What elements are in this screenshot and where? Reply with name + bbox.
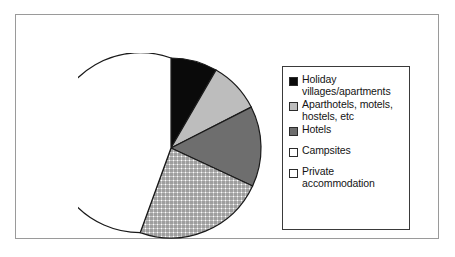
legend-item-aparthotels: Aparthotels, motels, hostels, etc (289, 99, 404, 122)
legend-item-private-accommodation: Private accommodation (289, 166, 404, 189)
legend-swatch-campsites (289, 148, 298, 157)
legend-swatch-holiday-villages (289, 77, 298, 86)
legend-swatch-hotels (289, 127, 298, 136)
legend-label-holiday-villages: Holiday villages/apartments (302, 74, 391, 97)
pie-chart-graphic (78, 53, 268, 243)
legend-swatch-private-accommodation (289, 169, 298, 178)
legend-swatch-aparthotels (289, 102, 298, 111)
pie-chart-figure: Holiday villages/apartments Aparthotels,… (0, 0, 455, 257)
legend-item-holiday-villages: Holiday villages/apartments (289, 74, 404, 97)
legend-label-campsites: Campsites (302, 145, 351, 157)
figure-frame: Holiday villages/apartments Aparthotels,… (15, 14, 439, 239)
legend-label-hotels: Hotels (302, 124, 331, 136)
legend-label-aparthotels: Aparthotels, motels, hostels, etc (302, 99, 393, 122)
chart-legend: Holiday villages/apartments Aparthotels,… (282, 66, 410, 230)
legend-item-campsites: Campsites (289, 145, 404, 157)
legend-item-hotels: Hotels (289, 124, 404, 136)
legend-label-private-accommodation: Private accommodation (302, 166, 375, 189)
